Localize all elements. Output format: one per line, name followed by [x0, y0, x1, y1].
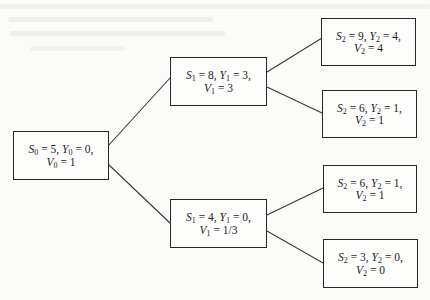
v-value: 1	[70, 156, 76, 168]
equals: =	[230, 69, 242, 81]
node-down: S1 = 4, Y1 = 0, V1 = 1/3	[170, 199, 267, 248]
edge-up-upup	[267, 38, 322, 72]
equals: =	[367, 264, 379, 276]
edge-down-downdown	[267, 231, 323, 263]
trailing-comma: ,	[400, 177, 403, 189]
equals: =	[215, 82, 227, 94]
node-line-1: S1 = 8, Y1 = 3,	[186, 69, 251, 82]
equals: =	[381, 102, 393, 114]
v-symbol: V	[355, 114, 362, 126]
v-symbol: V	[46, 156, 53, 168]
v-symbol: V	[354, 42, 361, 54]
trailing-comma: ,	[400, 251, 403, 263]
equals: =	[380, 30, 392, 42]
node-line-1: S2 = 3, Y2 = 0,	[338, 251, 403, 264]
equals: =	[196, 69, 208, 81]
equals: =	[230, 211, 242, 223]
equals: =	[365, 42, 377, 54]
node-line-2: V2 = 0	[356, 264, 385, 277]
equals: =	[348, 251, 360, 263]
v-symbol: V	[200, 224, 207, 236]
equals: =	[382, 177, 394, 189]
v-symbol: V	[356, 264, 363, 276]
equals: =	[382, 251, 394, 263]
v-value: 1	[379, 189, 385, 201]
trailing-comma: ,	[398, 30, 401, 42]
v-value: 3	[227, 82, 233, 94]
v-value: 1/3	[223, 224, 238, 236]
equals: =	[347, 177, 359, 189]
node-line-2: V0 = 1	[46, 156, 75, 169]
node-updown: S2 = 6, Y2 = 1, V2 = 1	[322, 90, 417, 138]
v-value: 4	[377, 42, 383, 54]
node-line-2: V2 = 1	[355, 114, 384, 127]
node-line-1: S2 = 6, Y2 = 1,	[337, 102, 402, 115]
v-value: 0	[379, 264, 385, 276]
node-line-1: S2 = 6, Y2 = 1,	[338, 177, 403, 190]
node-line-2: V1 = 1/3	[200, 224, 238, 237]
trailing-comma: ,	[248, 211, 251, 223]
v-symbol: V	[204, 82, 211, 94]
equals: =	[58, 156, 70, 168]
v-symbol: V	[355, 189, 362, 201]
edge-root-down	[108, 164, 170, 223]
edge-down-downup	[267, 188, 323, 215]
node-downup: S2 = 6, Y2 = 1, V2 = 1	[323, 165, 417, 213]
equals: =	[367, 189, 379, 201]
equals: =	[38, 143, 50, 155]
node-line-1: S1 = 4, Y1 = 0,	[186, 211, 251, 224]
equals: =	[346, 30, 358, 42]
trailing-comma: ,	[91, 143, 94, 155]
node-downdown: S2 = 3, Y2 = 0, V2 = 0	[323, 239, 418, 288]
node-upup: S2 = 9, Y2 = 4, V2 = 4	[321, 18, 416, 66]
node-line-2: V1 = 3	[204, 82, 233, 95]
trailing-comma: ,	[248, 69, 251, 81]
equals: =	[347, 102, 359, 114]
node-root: S0 = 5, Y0 = 0, V0 = 1	[13, 131, 109, 180]
trailing-comma: ,	[399, 102, 402, 114]
edge-up-updown	[267, 87, 322, 113]
equals: =	[211, 224, 223, 236]
node-line-1: S0 = 5, Y0 = 0,	[29, 143, 94, 156]
equals: =	[73, 143, 85, 155]
equals: =	[196, 211, 208, 223]
edge-root-up	[108, 78, 170, 146]
node-line-2: V2 = 1	[355, 189, 384, 202]
v-value: 1	[378, 114, 384, 126]
node-up: S1 = 8, Y1 = 3, V1 = 3	[170, 57, 267, 106]
node-line-2: V2 = 4	[354, 42, 383, 55]
node-line-1: S2 = 9, Y2 = 4,	[336, 30, 401, 43]
equals: =	[366, 114, 378, 126]
